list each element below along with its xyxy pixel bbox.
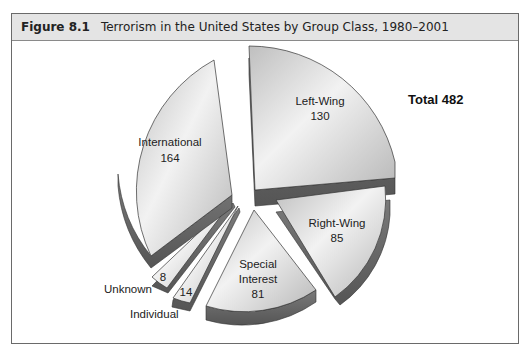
slice-left-wing: Left-Wing 130 xyxy=(249,46,395,206)
right-wing-label: Right-Wing xyxy=(309,217,366,229)
individual-value: 14 xyxy=(180,286,193,298)
pie-chart: Left-Wing 130 Right-Wing 85 Special Inte… xyxy=(0,0,531,354)
right-wing-value: 85 xyxy=(331,232,344,244)
slice-international: International 164 xyxy=(118,60,232,268)
left-wing-label: Left-Wing xyxy=(295,95,344,107)
total-label: Total 482 xyxy=(408,92,463,107)
unknown-label: Unknown xyxy=(104,283,152,295)
special-interest-label-2: Interest xyxy=(239,273,278,285)
unknown-value: 8 xyxy=(160,271,166,283)
left-wing-value: 130 xyxy=(310,110,329,122)
individual-label: Individual xyxy=(130,308,179,320)
international-label: International xyxy=(138,136,201,148)
international-value: 164 xyxy=(160,152,180,164)
special-interest-label-1: Special xyxy=(239,258,277,270)
special-interest-value: 81 xyxy=(252,288,265,300)
